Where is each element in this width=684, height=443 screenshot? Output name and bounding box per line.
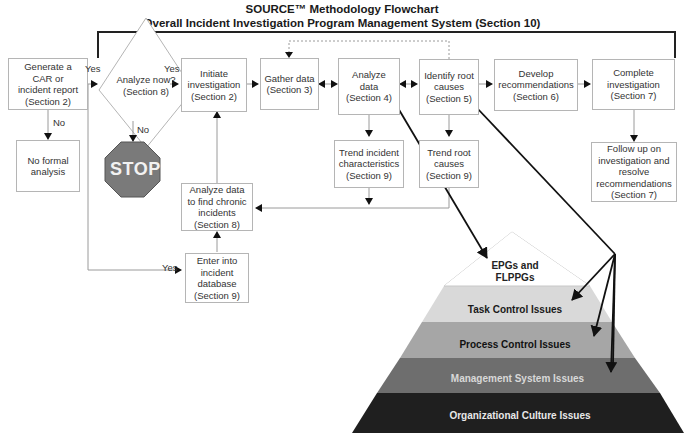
node-no-formal-label: No formal analysis xyxy=(27,155,68,178)
node-initiate-investigation[interactable]: Initiate investigation (Section 2) xyxy=(181,58,247,112)
pyramid-label-culture: Organizational Culture Issues xyxy=(380,410,660,422)
node-follow-up-label: Follow up on investigation and resolve r… xyxy=(596,143,672,201)
pyramid-label-task: Task Control Issues xyxy=(440,304,590,316)
node-gather-label: Gather data (Section 3) xyxy=(264,73,314,96)
node-enter-db-label: Enter into incident database (Section 9) xyxy=(194,255,240,301)
node-trend-incident-label: Trend incident characteristics (Section … xyxy=(339,147,400,182)
node-develop-recommendations[interactable]: Develop recommendations (Section 6) xyxy=(494,59,578,111)
section-10-bracket xyxy=(98,32,675,58)
node-trend-root-causes[interactable]: Trend root causes (Section 9) xyxy=(419,140,479,188)
node-gather-data[interactable]: Gather data (Section 3) xyxy=(260,58,319,110)
node-trend-root-label: Trend root causes (Section 9) xyxy=(426,147,472,182)
node-follow-up[interactable]: Follow up on investigation and resolve r… xyxy=(591,142,677,202)
edge-label-yes-car: Yes xyxy=(85,63,101,74)
feedback-dotted-connector xyxy=(285,41,449,59)
node-analyze-data[interactable]: Analyze data (Section 4) xyxy=(338,58,400,115)
stop-label: STOP xyxy=(110,159,161,180)
node-identify-root-causes[interactable]: Identify root causes (Section 5) xyxy=(419,59,479,115)
node-complete-label: Complete investigation (Section 7) xyxy=(607,67,660,102)
node-generate-car[interactable]: Generate a CAR or incident report (Secti… xyxy=(8,58,88,110)
node-generate-car-label: Generate a CAR or incident report (Secti… xyxy=(18,61,78,107)
node-trend-incident[interactable]: Trend incident characteristics (Section … xyxy=(334,140,404,188)
pyramid-label-epgs: EPGs and FLPPGs xyxy=(470,260,560,284)
node-initiate-label: Initiate investigation (Section 2) xyxy=(188,68,241,103)
node-analyze-chronic-label: Analyze data to find chronic incidents (… xyxy=(187,184,246,230)
edge-label-yes-database: Yes xyxy=(162,262,178,273)
node-no-formal-analysis[interactable]: No formal analysis xyxy=(16,140,80,192)
node-develop-recs-label: Develop recommendations (Section 6) xyxy=(498,68,574,103)
edge-label-no-car: No xyxy=(53,117,65,128)
node-complete-investigation[interactable]: Complete investigation (Section 7) xyxy=(592,59,675,110)
edge-label-yes-analyze: Yes xyxy=(164,63,180,74)
pyramid-label-process: Process Control Issues xyxy=(420,339,610,351)
pyramid-label-management: Management System Issues xyxy=(400,373,635,385)
node-analyze-data-label: Analyze data (Section 4) xyxy=(346,69,392,104)
node-analyze-chronic[interactable]: Analyze data to find chronic incidents (… xyxy=(181,183,253,231)
edge-label-no-analyze: No xyxy=(137,124,149,135)
node-enter-database[interactable]: Enter into incident database (Section 9) xyxy=(185,253,249,303)
node-identify-root-label: Identify root causes (Section 5) xyxy=(424,70,474,105)
node-analyze-now-label[interactable]: Analyze now? (Section 8) xyxy=(102,74,190,97)
